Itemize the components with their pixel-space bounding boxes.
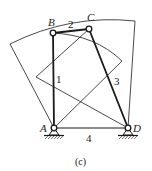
joint-label-d: D [132, 122, 141, 134]
inner-diagonal-to-a [54, 61, 122, 128]
joint-label-c: C [87, 11, 95, 23]
link-1 [53, 33, 54, 128]
outer-sector-left-edge [10, 44, 54, 128]
joint-d [125, 125, 131, 131]
inner-arc [53, 33, 122, 61]
outer-sector-locus [10, 20, 135, 128]
outer-sector-right-edge [128, 21, 135, 128]
link-label-4: 4 [86, 132, 92, 144]
inner-left-edge-to-c [36, 29, 89, 77]
link-label-1: 1 [56, 73, 62, 85]
link-label-2: 2 [68, 18, 74, 30]
joint-b [50, 30, 56, 36]
joint-c [86, 26, 92, 32]
joint-a [51, 125, 57, 131]
four-bar-linkage-diagram: B C A D 1 2 3 4 (c) [0, 0, 152, 171]
joint-label-a: A [39, 122, 47, 134]
joint-label-b: B [48, 16, 55, 28]
figure-caption: (c) [75, 156, 86, 168]
link-label-3: 3 [114, 75, 120, 87]
link-3 [89, 29, 128, 128]
